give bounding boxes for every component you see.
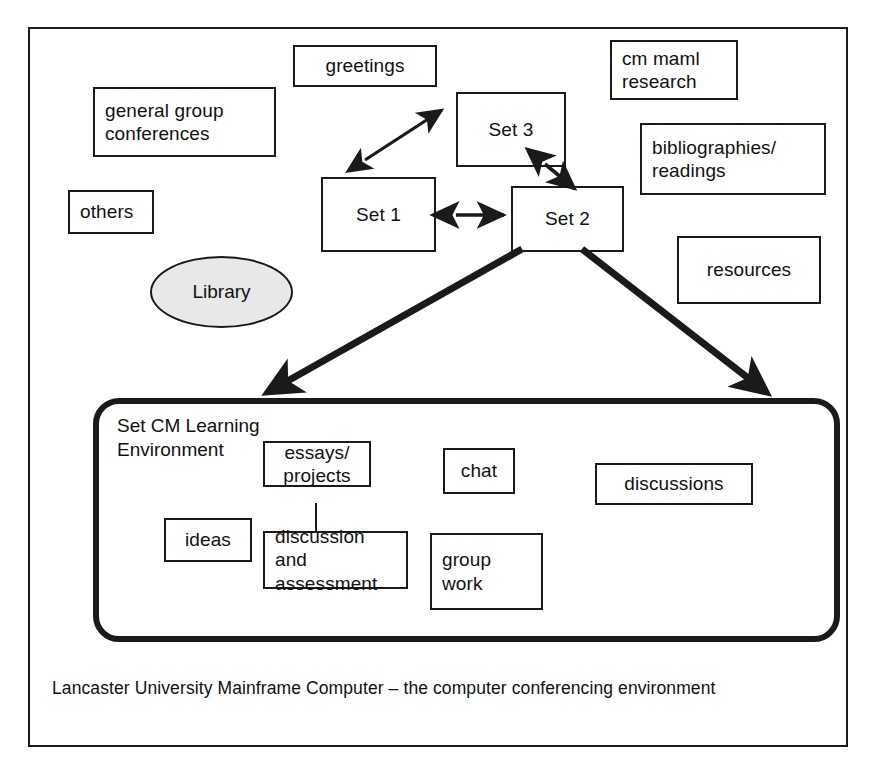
node-group-work-label: group work: [442, 548, 491, 594]
node-essays-projects[interactable]: essays/ projects: [263, 441, 371, 487]
node-set-2[interactable]: Set 2: [511, 186, 624, 252]
node-discussion-and-assessment[interactable]: discussion and assessment: [263, 531, 408, 589]
node-essays-projects-label: essays/ projects: [283, 441, 350, 487]
learning-environment-title: Set CM Learning Environment: [117, 414, 260, 463]
node-greetings-label: greetings: [325, 54, 404, 77]
node-discussions-label: discussions: [624, 472, 723, 495]
node-library[interactable]: Library: [150, 256, 293, 328]
node-set-1[interactable]: Set 1: [321, 177, 436, 252]
node-discussion-and-assessment-label: discussion and assessment: [275, 525, 396, 595]
node-set-2-label: Set 2: [545, 207, 590, 230]
node-others[interactable]: others: [68, 190, 154, 234]
diagram-canvas: Set 3 : thin diagonal double arrow --> S…: [0, 0, 878, 773]
node-cm-maml-research-label: cm maml research: [622, 47, 700, 93]
node-set-3[interactable]: Set 3: [456, 92, 566, 167]
node-ideas[interactable]: ideas: [164, 518, 252, 562]
node-others-label: others: [80, 200, 133, 223]
node-library-label: Library: [192, 281, 250, 303]
node-cm-maml-research[interactable]: cm maml research: [610, 40, 738, 100]
node-general-group-conferences-label: general group conferences: [105, 99, 224, 145]
node-set-1-label: Set 1: [356, 203, 401, 226]
node-bibliographies-readings-label: bibliographies/ readings: [652, 136, 776, 182]
node-ideas-label: ideas: [185, 528, 231, 551]
figure-caption: Lancaster University Mainframe Computer …: [52, 678, 715, 699]
node-greetings[interactable]: greetings: [293, 45, 437, 87]
node-resources[interactable]: resources: [677, 236, 821, 304]
node-bibliographies-readings[interactable]: bibliographies/ readings: [640, 123, 826, 195]
node-chat-label: chat: [461, 459, 497, 482]
node-set-3-label: Set 3: [489, 118, 534, 141]
node-group-work[interactable]: group work: [430, 533, 543, 610]
node-general-group-conferences[interactable]: general group conferences: [93, 87, 276, 157]
node-chat[interactable]: chat: [443, 448, 515, 494]
node-resources-label: resources: [707, 258, 791, 281]
node-discussions[interactable]: discussions: [595, 463, 753, 505]
